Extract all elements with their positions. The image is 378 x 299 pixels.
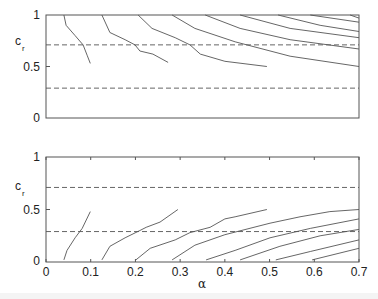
top-ytick-0: 0 (33, 111, 40, 125)
xtick-label: 0.2 (127, 265, 144, 279)
contour-chart: 1 0.5 0 c r 00.10.20.30.40.50.60.7 1 0.5… (0, 0, 378, 299)
bottom-ylabel: c (15, 179, 21, 193)
top-ylabel-sub: r (22, 44, 25, 53)
xtick-label: 0.1 (82, 265, 99, 279)
xtick-label: 0.3 (172, 265, 189, 279)
top-ytick-1: 1 (33, 8, 40, 22)
xtick-label: 0 (43, 265, 50, 279)
bottom-panel: 00.10.20.30.40.50.60.7 1 0.5 0 c r α (15, 150, 368, 291)
top-panel: 1 0.5 0 c r (15, 8, 359, 125)
xtick-label: 0.6 (306, 265, 323, 279)
bottom-ylabel-sub: r (22, 189, 25, 198)
caption-remnant (0, 293, 378, 299)
top-ytick-0.5: 0.5 (23, 60, 40, 74)
xtick-label: 0.7 (351, 265, 368, 279)
bottom-plot-area (46, 157, 359, 262)
bottom-ytick-0: 0 (33, 254, 40, 268)
bottom-ytick-1: 1 (33, 150, 40, 164)
bottom-xlabel: α (198, 277, 206, 291)
bottom-ytick-0.5: 0.5 (23, 203, 40, 217)
xtick-label: 0.5 (261, 265, 278, 279)
xtick-label: 0.4 (217, 265, 234, 279)
top-ylabel: c (15, 34, 21, 48)
top-plot-area (46, 15, 359, 118)
